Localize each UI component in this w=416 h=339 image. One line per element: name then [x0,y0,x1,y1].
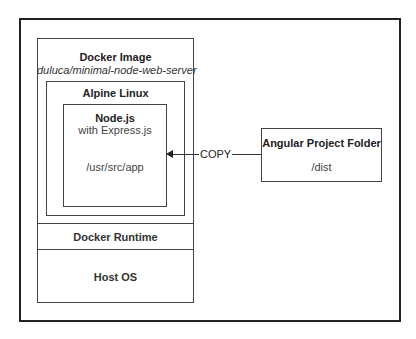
angular-project-folder-title: Angular Project Folder [261,137,382,150]
host-os-label: Host OS [37,271,194,284]
nodejs-subtitle: with Express.js [63,124,167,137]
nodejs-path: /usr/src/app [63,161,167,174]
arrowhead-icon [166,150,173,158]
runtime-divider [37,223,194,224]
copy-edge-label: COPY [199,148,232,160]
host-os-divider [37,249,194,250]
docker-runtime-label: Docker Runtime [37,231,194,244]
docker-image-subtitle: duluca/minimal-node-web-server [37,64,194,77]
docker-image-title: Docker Image [37,51,194,64]
alpine-linux-title: Alpine Linux [46,87,185,100]
angular-dist-path: /dist [261,161,382,174]
